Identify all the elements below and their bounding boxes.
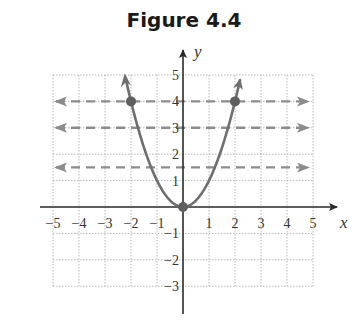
x-tick-label: 4: [284, 216, 291, 231]
x-tick-label: 5: [310, 216, 317, 231]
point: [178, 202, 188, 212]
parabola-curve: [121, 73, 240, 207]
x-tick-label: 3: [258, 216, 265, 231]
x-axis-label: x: [339, 213, 348, 232]
x-tick-label: −3: [98, 216, 113, 231]
y-tick-label: 5: [172, 68, 179, 83]
x-tick-label: −1: [150, 216, 165, 231]
y-tick-label: 4: [172, 94, 179, 109]
axes: [40, 50, 337, 314]
y-axis-label: y: [192, 42, 202, 61]
x-tick-label: 2: [232, 216, 239, 231]
x-tick-label: −2: [124, 216, 139, 231]
dashed-horizontal-lines: [54, 96, 309, 172]
point: [230, 96, 240, 106]
y-tick-label: 2: [172, 147, 179, 162]
y-tick-label: −2: [164, 253, 179, 268]
y-tick-label: 1: [172, 174, 179, 189]
y-tick-label: 3: [172, 121, 179, 136]
y-tick-label: −1: [164, 226, 179, 241]
x-tick-label: 1: [206, 216, 213, 231]
x-tick-label: −5: [46, 216, 61, 231]
x-tick-label: −4: [72, 216, 87, 231]
coordinate-plane: −5−4−3−2−11234554321−1−2−3xy: [0, 0, 357, 329]
y-tick-label: −3: [164, 279, 179, 294]
point: [126, 96, 136, 106]
left-arrow-icon: [54, 162, 67, 172]
